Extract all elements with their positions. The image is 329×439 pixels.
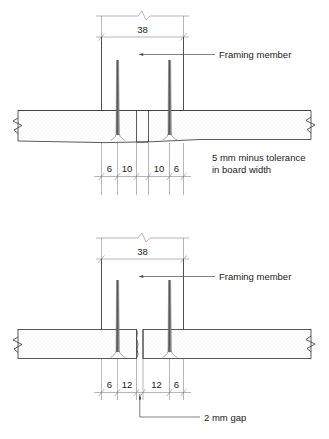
lower-chain-value-3: 12 (151, 379, 162, 390)
upper-tolerance-note-line2: in board width (212, 164, 271, 175)
lower-detail-group: 38 Framing member (13, 233, 315, 423)
upper-break-symbol-top (138, 11, 150, 20)
lower-chain-value-1: 6 (107, 379, 112, 390)
upper-chain-value-3: 10 (154, 163, 165, 174)
lower-dimension-chain: 6 12 12 6 (94, 359, 191, 400)
upper-dimension-chain: 6 10 10 6 (94, 143, 191, 195)
technical-drawing-canvas: 38 Framing member (0, 0, 329, 439)
upper-framing-member-label: Framing member (219, 49, 291, 60)
lower-dim-38-value: 38 (137, 246, 148, 257)
lower-framing-member-label: Framing member (219, 271, 291, 282)
upper-chain-value-2: 10 (122, 163, 133, 174)
upper-chain-value-1: 6 (107, 163, 112, 174)
gap-note-label: 2 mm gap (204, 412, 246, 423)
gap-note-leader-dot (139, 397, 141, 400)
lower-break-symbol-top (138, 233, 150, 242)
upper-tolerance-note-line1: 5 mm minus tolerance (212, 152, 305, 163)
upper-detail-group: 38 Framing member (13, 11, 315, 195)
upper-board-section (18, 111, 311, 143)
upper-dim-38-value: 38 (137, 24, 148, 35)
drawing-sheet: 38 Framing member (0, 0, 329, 439)
lower-chain-value-2: 12 (122, 379, 133, 390)
lower-chain-value-4: 6 (174, 379, 179, 390)
gap-note-leader (140, 394, 200, 417)
upper-chain-value-4: 6 (174, 163, 179, 174)
